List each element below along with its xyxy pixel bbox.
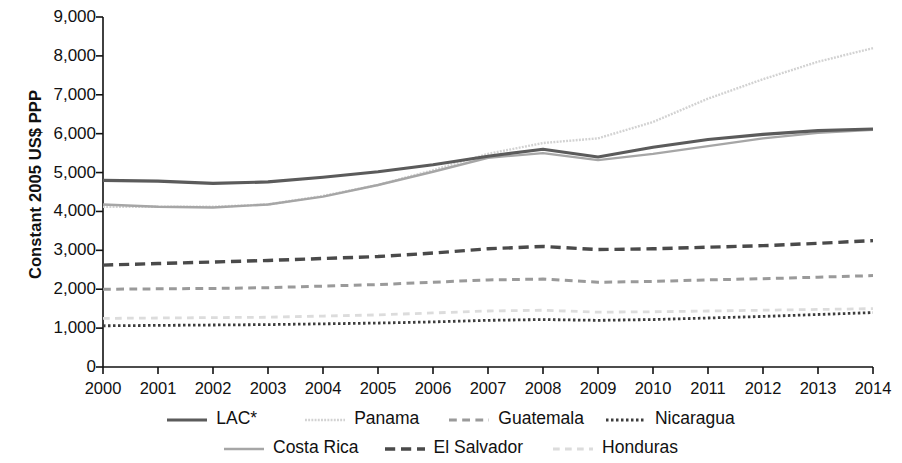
x-axis-tick-label: 2005 [360,379,397,398]
x-axis-tick-label: 2014 [855,379,892,398]
legend-swatch-container [553,439,593,457]
legend-item-honduras[interactable]: Honduras [553,439,678,457]
legend-label: LAC* [216,410,257,428]
legend-label: Costa Rica [273,439,359,457]
legend-item-costa-rica[interactable]: Costa Rica [224,439,359,457]
legend-label: Panama [354,410,419,428]
legend-swatch-panama [305,416,345,424]
legend-label: El Salvador [434,439,524,457]
x-axis-tick-label: 2006 [415,379,452,398]
legend-swatch-costa-rica [224,445,264,453]
x-axis-tick-label: 2013 [800,379,837,398]
legend-item-panama[interactable]: Panama [305,410,419,428]
x-axis-tick-label: 2009 [580,379,617,398]
legend-item-nicaragua[interactable]: Nicaragua [606,410,735,428]
x-axis-tick-label: 2000 [85,379,122,398]
x-axis-tick-label: 2004 [305,379,342,398]
chart-legend: LAC*PanamaGuatemalaNicaragua Costa RicaE… [0,404,902,463]
legend-label: Honduras [602,439,678,457]
x-axis-tick-label: 2007 [470,379,507,398]
x-axis-tick-label: 2010 [635,379,672,398]
legend-swatch-container [449,410,489,428]
legend-row-2: Costa RicaEl SalvadorHonduras [0,434,902,462]
series-line-nicaragua [103,313,873,326]
legend-swatch-el-salvador [385,445,425,453]
line-chart: Constant 2005 US$ PPP 01,0002,0003,0004,… [0,0,902,463]
legend-swatch-container [385,439,425,457]
legend-swatch-container [305,410,345,428]
legend-item-el-salvador[interactable]: El Salvador [385,439,524,457]
legend-swatch-container [167,410,207,428]
legend-swatch-guatemala [449,416,489,424]
x-axis-tick-label: 2011 [690,379,725,398]
legend-label: Guatemala [498,410,584,428]
legend-swatch-nicaragua [606,416,646,424]
legend-swatch-honduras [553,445,593,453]
x-axis-tick-label: 2003 [250,379,287,398]
series-line-el-salvador [103,241,873,265]
legend-swatch-container [606,410,646,428]
legend-item-lac[interactable]: LAC* [167,410,257,428]
x-axis-tick-label: 2002 [195,379,232,398]
legend-label: Nicaragua [655,410,735,428]
series-line-guatemala [103,276,873,290]
legend-swatch-container [224,439,264,457]
legend-item-guatemala[interactable]: Guatemala [449,410,584,428]
x-axis-tick-label: 2012 [745,379,782,398]
legend-row-1: LAC*PanamaGuatemalaNicaragua [0,405,902,433]
series-line-lac [103,129,873,183]
series-line-honduras [103,309,873,319]
x-axis-tick-label: 2008 [525,379,562,398]
series-line-costa-rica [103,130,873,208]
x-axis-tick-label: 2001 [140,379,177,398]
legend-swatch-lac [167,416,207,424]
